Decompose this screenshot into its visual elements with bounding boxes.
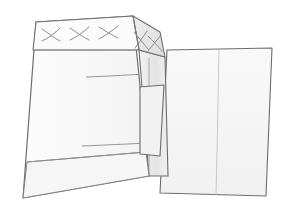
connector-tab xyxy=(140,85,164,156)
illustration-canvas xyxy=(0,0,284,219)
right-lid-panel xyxy=(160,48,272,196)
connector-tab-group xyxy=(140,85,164,156)
right-lid-panel-group xyxy=(160,48,272,196)
carton-top-band xyxy=(33,16,139,50)
carton-line-drawing xyxy=(0,0,284,219)
